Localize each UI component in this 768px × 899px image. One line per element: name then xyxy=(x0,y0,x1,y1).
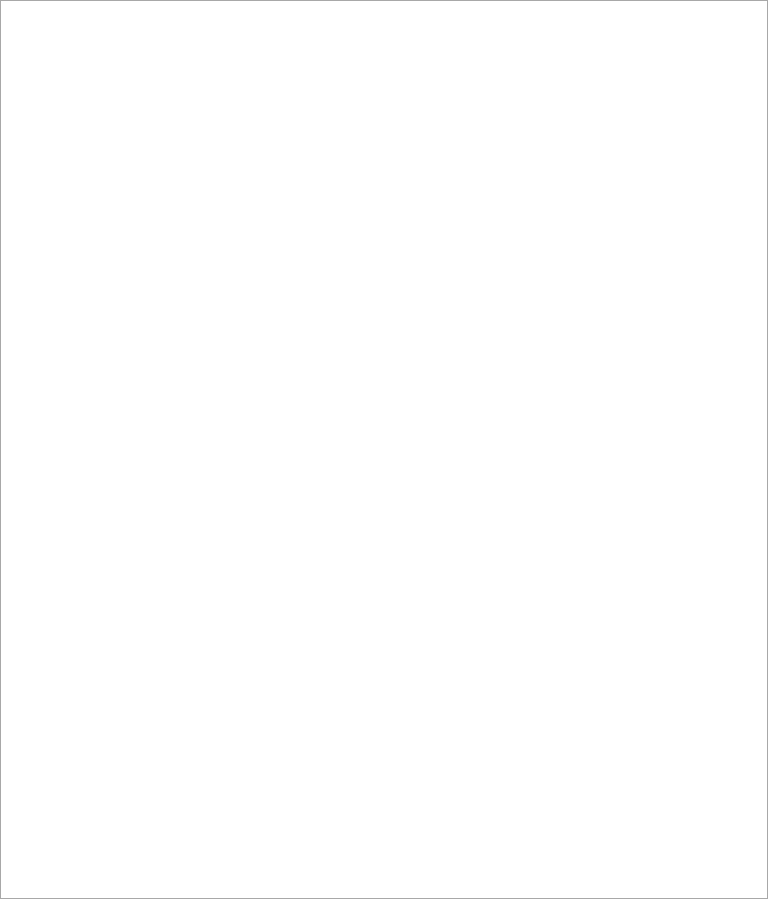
figure-container xyxy=(0,0,768,899)
scatter-plot-breast-cancer xyxy=(1,433,768,899)
chart-panel-colon-cancer xyxy=(1,1,768,433)
chart-panel-breast-cancer xyxy=(1,433,768,899)
scatter-plot-colon-cancer xyxy=(1,1,768,433)
